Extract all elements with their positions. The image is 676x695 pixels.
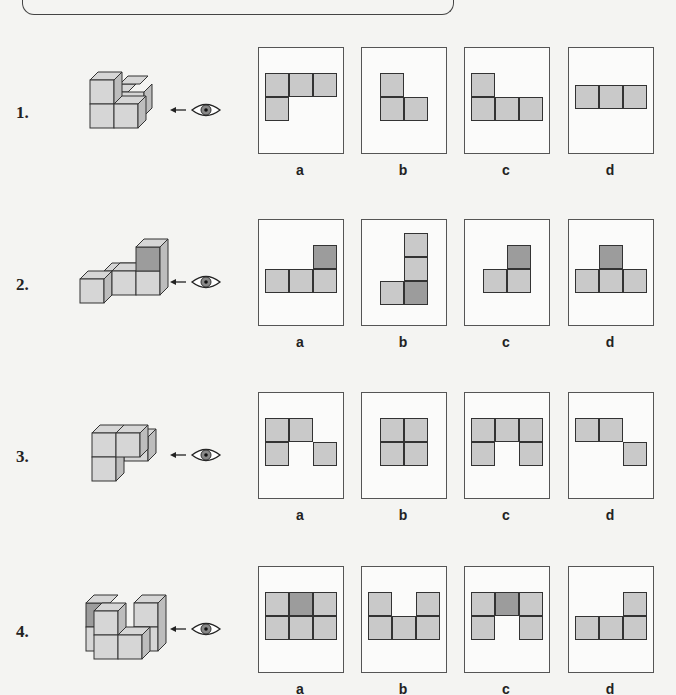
eye-icon (170, 445, 230, 465)
square (289, 269, 313, 293)
square (313, 616, 337, 640)
cube-figure-4 (60, 585, 170, 680)
option-label: d (568, 162, 652, 178)
square (265, 442, 289, 466)
option-2-a[interactable] (258, 219, 344, 326)
option-label: c (464, 681, 548, 695)
option-label: d (568, 334, 652, 350)
square (471, 73, 495, 97)
problem-number: 1. (16, 103, 29, 123)
option-4-d[interactable] (568, 566, 654, 673)
shaded-square (313, 245, 337, 269)
square (404, 233, 428, 257)
square (380, 418, 404, 442)
option-label: c (464, 507, 548, 523)
square (575, 616, 599, 640)
option-3-d[interactable] (568, 392, 654, 499)
square (380, 442, 404, 466)
shaded-square (507, 245, 531, 269)
square (404, 442, 428, 466)
square (471, 592, 495, 616)
cube-figure-3 (60, 415, 170, 510)
cube-figure-1 (60, 62, 170, 157)
square (471, 616, 495, 640)
option-label: d (568, 507, 652, 523)
square (416, 592, 440, 616)
arrow-left-icon (170, 279, 176, 285)
option-1-d[interactable] (568, 47, 654, 154)
square (313, 269, 337, 293)
option-4-c[interactable] (464, 566, 550, 673)
square (599, 616, 623, 640)
square (599, 85, 623, 109)
option-label: a (258, 507, 342, 523)
square (471, 97, 495, 121)
square (404, 97, 428, 121)
square (623, 442, 647, 466)
square (404, 418, 428, 442)
option-3-c[interactable] (464, 392, 550, 499)
square (623, 592, 647, 616)
square (519, 616, 543, 640)
square (313, 442, 337, 466)
square (313, 73, 337, 97)
square (313, 592, 337, 616)
problem-number: 3. (16, 447, 29, 467)
square (289, 418, 313, 442)
option-label: d (568, 681, 652, 695)
arrow-left-icon (170, 107, 176, 113)
option-1-a[interactable] (258, 47, 344, 154)
square (265, 418, 289, 442)
eye-icon (170, 100, 230, 120)
square (483, 269, 507, 293)
option-4-b[interactable] (361, 566, 447, 673)
option-1-b[interactable] (361, 47, 447, 154)
option-label: b (361, 507, 445, 523)
shaded-square (404, 281, 428, 305)
square (392, 616, 416, 640)
option-label: a (258, 334, 342, 350)
option-label: b (361, 162, 445, 178)
option-2-d[interactable] (568, 219, 654, 326)
square (519, 592, 543, 616)
problem-number: 4. (16, 622, 29, 642)
eye-icon (170, 272, 230, 292)
square (519, 418, 543, 442)
arrow-left-icon (170, 626, 176, 632)
problem-number: 2. (16, 275, 29, 295)
square (289, 616, 313, 640)
option-3-b[interactable] (361, 392, 447, 499)
square (265, 616, 289, 640)
square (380, 97, 404, 121)
square (575, 418, 599, 442)
square (519, 97, 543, 121)
option-1-c[interactable] (464, 47, 550, 154)
square (507, 269, 531, 293)
arrow-left-icon (170, 452, 176, 458)
shaded-square (495, 592, 519, 616)
square (368, 592, 392, 616)
option-3-a[interactable] (258, 392, 344, 499)
square (380, 281, 404, 305)
eye-icon (170, 619, 230, 639)
square (623, 616, 647, 640)
square (575, 269, 599, 293)
square (519, 442, 543, 466)
square (404, 257, 428, 281)
option-2-c[interactable] (464, 219, 550, 326)
option-label: c (464, 334, 548, 350)
instruction-box (22, 0, 454, 15)
square (599, 269, 623, 293)
shaded-square (289, 592, 313, 616)
square (289, 73, 313, 97)
option-label: b (361, 334, 445, 350)
option-4-a[interactable] (258, 566, 344, 673)
square (623, 269, 647, 293)
option-label: b (361, 681, 445, 695)
option-2-b[interactable] (361, 219, 447, 326)
square (265, 73, 289, 97)
square (265, 592, 289, 616)
square (471, 418, 495, 442)
shaded-square (599, 245, 623, 269)
square (368, 616, 392, 640)
